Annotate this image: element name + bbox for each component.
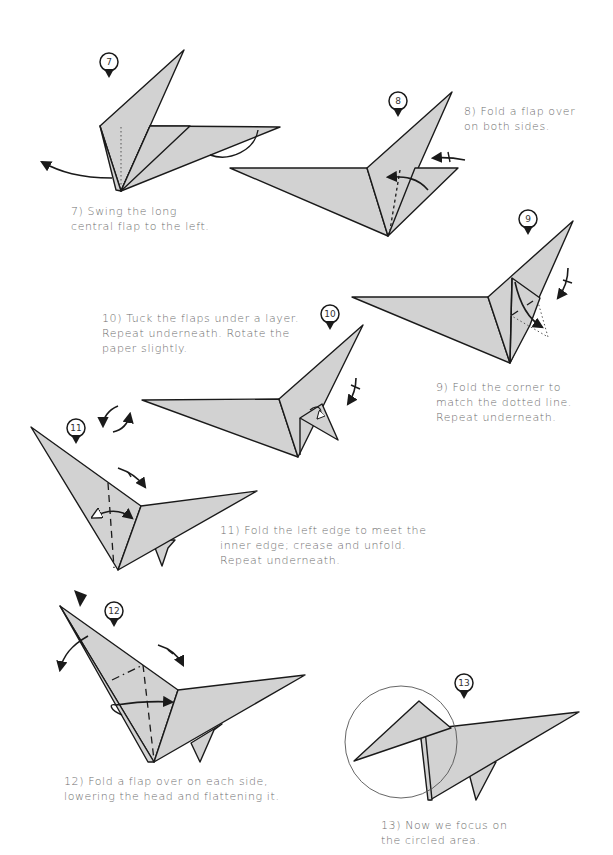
step-12-figure bbox=[60, 590, 305, 762]
step-7-caption: 7) Swing the long central flap to the le… bbox=[71, 204, 209, 234]
step-11-caption: 11) Fold the left edge to meet the inner… bbox=[220, 523, 427, 568]
svg-text:7: 7 bbox=[106, 57, 112, 67]
step-8-caption: 8) Fold a flap over on both sides. bbox=[464, 104, 575, 134]
step-8-figure bbox=[230, 92, 465, 236]
svg-text:13: 13 bbox=[458, 678, 469, 688]
step-10-badge: 10 bbox=[321, 305, 339, 330]
step-11-badge: 11 bbox=[67, 419, 85, 444]
step-12-badge: 12 bbox=[105, 602, 123, 627]
step-10-caption: 10) Tuck the flaps under a layer. Repeat… bbox=[102, 311, 299, 356]
svg-text:11: 11 bbox=[70, 423, 81, 433]
svg-text:10: 10 bbox=[324, 309, 336, 319]
step-7-badge: 7 bbox=[100, 53, 118, 78]
svg-text:8: 8 bbox=[395, 96, 401, 106]
step-13-badge: 13 bbox=[455, 674, 473, 699]
step-8-badge: 8 bbox=[389, 92, 407, 117]
step-9-caption: 9) Fold the corner to match the dotted l… bbox=[436, 380, 572, 425]
step-13-figure bbox=[345, 686, 579, 800]
step-13-caption: 13) Now we focus on the circled area. bbox=[381, 818, 507, 848]
svg-text:9: 9 bbox=[525, 214, 531, 224]
svg-text:12: 12 bbox=[108, 606, 119, 616]
step-9-figure bbox=[352, 221, 573, 363]
step-12-caption: 12) Fold a flap over on each side, lower… bbox=[64, 774, 280, 804]
step-9-badge: 9 bbox=[519, 210, 537, 235]
